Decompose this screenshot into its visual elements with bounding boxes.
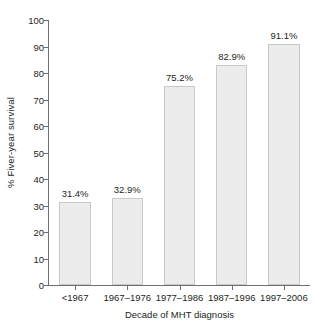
bar-slot: 75.2%: [164, 20, 195, 285]
y-axis-tick-label: 50: [33, 147, 44, 158]
bar-value-label: 75.2%: [166, 72, 193, 83]
y-axis-tick-label: 40: [33, 174, 44, 185]
bar[interactable]: [268, 44, 299, 285]
y-axis-tick-mark: [44, 73, 48, 74]
bar-value-label: 91.1%: [270, 30, 297, 41]
bar[interactable]: [112, 198, 143, 285]
y-axis-tick-mark: [44, 20, 48, 21]
y-axis-tick-mark: [44, 47, 48, 48]
y-axis-tick-mark: [44, 206, 48, 207]
x-axis-tick-mark: [180, 286, 181, 290]
x-axis-tick-label: 1967–1976: [104, 292, 152, 303]
y-axis-tick-label: 30: [33, 200, 44, 211]
y-axis-tick-mark: [44, 285, 48, 286]
bar-slot: 91.1%: [268, 20, 299, 285]
x-axis-tick-label: 1977–1986: [156, 292, 204, 303]
y-axis-tick-mark: [44, 179, 48, 180]
bar[interactable]: [216, 65, 247, 285]
bar-chart-figure: % Fiver-year survival 010203040506070809…: [0, 0, 316, 329]
x-axis-tick-label: 1997–2006: [260, 292, 308, 303]
bar-slot: 82.9%: [216, 20, 247, 285]
x-axis-tick-mark: [75, 286, 76, 290]
y-axis-tick-label: 80: [33, 68, 44, 79]
y-axis-tick-label: 60: [33, 121, 44, 132]
x-axis-tick-label: 1987–1996: [208, 292, 256, 303]
y-axis-tick-label: 100: [28, 15, 44, 26]
y-axis-tick-mark: [44, 232, 48, 233]
bar-value-label: 82.9%: [218, 51, 245, 62]
y-axis-tick-mark: [44, 153, 48, 154]
x-axis-tick-label: <1967: [62, 292, 89, 303]
y-axis-title-text: % Fiver-year survival: [5, 97, 16, 188]
plot-area: 31.4%32.9%75.2%82.9%91.1%: [49, 20, 310, 285]
x-axis-tick-mark: [284, 286, 285, 290]
y-axis-tick-mark: [44, 259, 48, 260]
y-axis-tick-label: 90: [33, 41, 44, 52]
x-axis-tick-mark: [127, 286, 128, 290]
bar[interactable]: [164, 86, 195, 285]
bar-value-label: 31.4%: [62, 188, 89, 199]
bar-slot: 31.4%: [59, 20, 90, 285]
y-axis-tick-labels: 0102030405060708090100: [18, 20, 44, 285]
y-axis-tick-mark: [44, 100, 48, 101]
bar-value-label: 32.9%: [114, 184, 141, 195]
x-axis-title: Decade of MHT diagnosis: [49, 309, 310, 320]
y-axis-tick-label: 10: [33, 253, 44, 264]
y-axis-tick-label: 20: [33, 227, 44, 238]
y-axis-tick-mark: [44, 126, 48, 127]
x-axis-tick-mark: [232, 286, 233, 290]
bar[interactable]: [59, 202, 90, 285]
bar-slot: 32.9%: [112, 20, 143, 285]
y-axis-tick-label: 70: [33, 94, 44, 105]
y-axis-title: % Fiver-year survival: [0, 0, 20, 285]
